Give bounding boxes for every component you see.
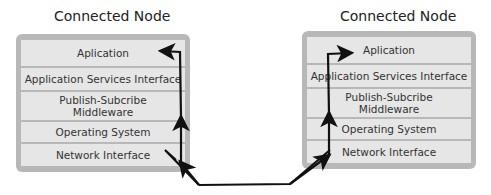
message-flow-arrows (0, 0, 491, 195)
